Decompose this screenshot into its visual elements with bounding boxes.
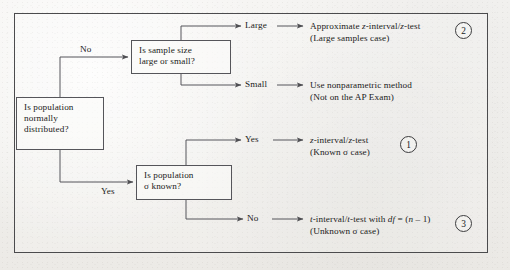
branch-label-yes-sigma: Yes: [245, 134, 259, 144]
box-line: normally: [24, 113, 97, 124]
box-line: Is sample size: [139, 45, 224, 56]
outcome-line-1: Approximate z-interval/z-test: [310, 20, 420, 32]
box-line: distributed?: [24, 124, 97, 135]
outcome-line-2: (Not on the AP Exam): [310, 91, 412, 103]
outcome-approximate-z: Approximate z-interval/z-test (Large sam…: [310, 20, 420, 45]
decision-box-sigma-known[interactable]: Is population σ known?: [136, 165, 232, 200]
outcome-nonparametric: Use nonparametric method (Not on the AP …: [310, 79, 412, 104]
circled-marker-1: 1: [400, 136, 417, 153]
circled-marker-3: 3: [455, 215, 472, 232]
box-line: Is population: [24, 102, 97, 113]
branch-label-no-upper: No: [80, 44, 92, 54]
branch-label-large: Large: [245, 20, 267, 30]
decision-box-population-normal[interactable]: Is population normally distributed?: [16, 97, 104, 150]
circled-marker-2: 2: [455, 22, 472, 39]
outcome-line-1: z-interval/z-test: [310, 134, 370, 146]
outcome-line-2: (Known σ case): [310, 146, 370, 158]
outcome-z-interval: z-interval/z-test (Known σ case): [310, 134, 370, 159]
flowchart-diagram: Is population normally distributed? Is s…: [0, 0, 510, 270]
box-line: Is population: [144, 170, 225, 181]
outcome-line-2: (Large samples case): [310, 32, 420, 44]
outcome-line-2: (Unknown σ case): [310, 225, 431, 237]
branch-label-small: Small: [245, 79, 267, 89]
branch-label-no-sigma: No: [247, 213, 259, 223]
outcome-line-1: t-interval/t-test with df = (n – 1): [310, 213, 431, 225]
box-line: large or small?: [139, 56, 224, 67]
decision-box-sample-size[interactable]: Is sample size large or small?: [131, 40, 231, 74]
branch-label-yes-lower: Yes: [101, 186, 115, 196]
outcome-t-interval: t-interval/t-test with df = (n – 1) (Unk…: [310, 213, 431, 238]
outcome-line-1: Use nonparametric method: [310, 79, 412, 91]
box-line: σ known?: [144, 181, 225, 192]
